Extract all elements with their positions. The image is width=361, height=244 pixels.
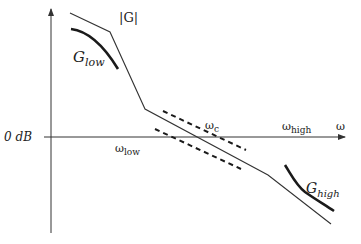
zero-db-label: 0 dB <box>4 130 32 144</box>
omega-c-label: ωc <box>205 119 219 134</box>
omega-low-label: ωlow <box>115 142 140 157</box>
omega-high-label: ωhigh <box>282 120 311 135</box>
low-bound-label: Glow <box>73 48 105 69</box>
bode-diagram: |G| Glow 0 dB ωlow ωc ωhigh ω Ghigh <box>0 0 361 244</box>
open-loop-gain-label: |G| <box>119 10 138 25</box>
open-loop-gain-curve <box>70 13 331 224</box>
crossover-band-lower-dashed <box>155 129 241 169</box>
frequency-axis-label: ω <box>336 120 345 133</box>
